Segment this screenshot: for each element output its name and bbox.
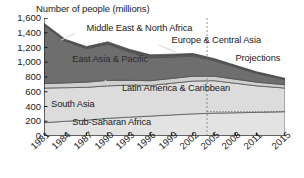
annotation-label: Latin America & Caribbean [122,84,230,93]
y-axis-tick-label: 400 [25,102,41,112]
label-leader-line [61,33,75,40]
label-leader-line [159,45,176,52]
chart-figure: Number of people (millions) 020040060080… [0,0,304,178]
y-axis-tick-label: 1,200 [17,43,41,53]
annotation-label: Projections [235,54,280,63]
annotation-label: Middle East & North Africa [87,24,193,33]
y-axis-tick-label: 1,000 [17,57,41,67]
y-axis-tick-label: 600 [25,87,41,97]
annotation-label: East Asia & Pacific [72,55,148,64]
y-axis-title: Number of people (millions) [36,3,149,14]
annotation-label: Europe & Central Asia [172,36,261,45]
x-axis-tick-labels: 1981198419871990199319961999200220052008… [44,136,285,178]
y-axis-tick-label: 1,600 [17,13,41,23]
y-axis-tick-label: 1,400 [17,28,41,38]
y-axis-tick-labels: 02004006008001,0001,2001,4001,600 [0,18,41,136]
annotation-label: Sub-Saharan Africa [72,118,151,127]
y-axis-tick-label: 200 [25,116,41,126]
y-axis-tick-label: 800 [25,72,41,82]
annotation-label: South Asia [51,100,94,109]
